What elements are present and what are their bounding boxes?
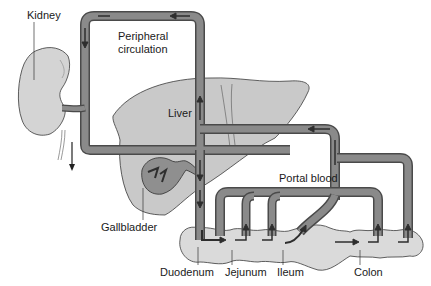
label-ileum: Ileum bbox=[277, 266, 304, 278]
label-jejunum: Jejunum bbox=[225, 266, 267, 278]
label-liver: Liver bbox=[168, 107, 192, 119]
vessels bbox=[62, 16, 408, 240]
label-duodenum: Duodenum bbox=[160, 266, 214, 278]
label-kidney: Kidney bbox=[27, 9, 61, 21]
label-peripheral-line1: Peripheral bbox=[118, 30, 168, 42]
kidney bbox=[18, 48, 69, 136]
label-gallbladder: Gallbladder bbox=[101, 221, 157, 233]
circulation-diagram bbox=[0, 0, 431, 286]
label-peripheral-line2: circulation bbox=[118, 43, 168, 55]
label-portal-blood: Portal blood bbox=[279, 172, 338, 184]
label-colon: Colon bbox=[354, 266, 383, 278]
